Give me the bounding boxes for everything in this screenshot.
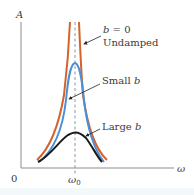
undamped-b-label: b = 0 bbox=[103, 24, 131, 35]
y-axis-label: A bbox=[15, 9, 23, 20]
small-b-label: Small b bbox=[102, 75, 140, 86]
undamped-word-label: Undamped bbox=[103, 37, 159, 48]
undamped-curve bbox=[37, 22, 107, 160]
undamped-arrow bbox=[84, 36, 101, 44]
bottom-strip bbox=[0, 188, 194, 195]
origin-label: 0 bbox=[11, 173, 17, 184]
resonance-amplitude-figure: A ω 0 ω0 b = 0 Undamped Small b Large b bbox=[0, 0, 194, 195]
x-axis-label: ω bbox=[177, 163, 185, 174]
large-b-label: Large b bbox=[102, 121, 141, 132]
omega-zero-tick-label: ω0 bbox=[68, 174, 81, 187]
small-damping-curve bbox=[39, 63, 104, 162]
